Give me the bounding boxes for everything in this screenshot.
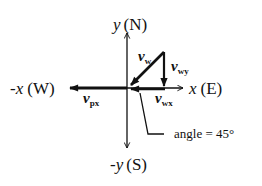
v-w-label: vw: [138, 48, 152, 66]
x-axis-label: x(E): [188, 79, 222, 98]
vector-diagram: y(N) -y(S) -x(W) x(E) vw vwy vwx vpx ang…: [0, 0, 262, 186]
neg-y-axis-label: -y(S): [110, 155, 147, 174]
v-wy-label: vwy: [171, 58, 189, 76]
neg-x-axis-label: -x(W): [10, 79, 55, 98]
y-axis-label: y(N): [111, 15, 147, 34]
v-wx-label: vwx: [155, 90, 173, 108]
angle-annotation: angle = 45°: [174, 126, 234, 141]
v-px-label: vpx: [83, 90, 100, 108]
